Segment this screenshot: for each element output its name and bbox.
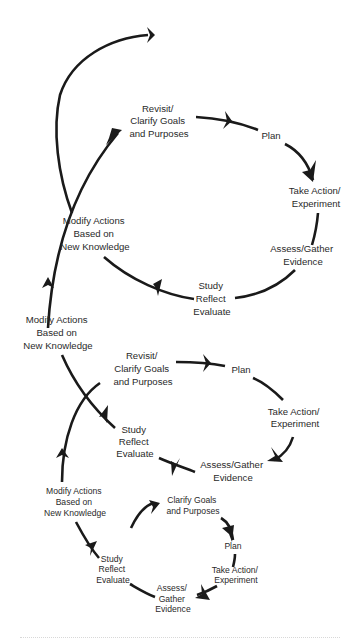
label-take-action: Take Action/ Experiment [268,406,322,429]
arrowhead-icon [106,128,122,145]
arc-revisit-plan [176,362,225,366]
label-plan: Plan [224,541,241,551]
label-study: Study Reflect Evaluate [193,280,230,317]
label-revisit: Revisit/ Clarify Goals and Purposes [129,103,188,139]
arc-study-clarify [131,503,153,528]
label-study: Study Reflect Evaluate [116,424,153,459]
caption-line [20,637,340,641]
spiral-cycle-diagram: Revisit/ Clarify Goals and Purposes Plan… [0,0,362,644]
label-modify: Modify Actions Based on New Knowledge [60,215,129,252]
label-clarify: Clarify Goals and Purposes [166,495,219,516]
arc-plan-takeaction [253,378,283,400]
label-modify-in: Modify Actions Based on New Knowledge [23,314,92,351]
bottom-cycle: Modify Actions Based on New Knowledge Cl… [44,486,260,614]
arc-into-revisit [62,383,100,482]
label-study: Study Reflect Evaluate [96,554,130,585]
label-assess: Assess/Gather Evidence [200,459,266,483]
arc-assess-study [159,458,195,472]
label-modify-in: Modify Actions Based on New Knowledge [44,486,106,518]
arc-assess-study [235,270,295,298]
label-plan: Plan [231,364,250,375]
label-take-action: Take Action/ Experiment [289,185,343,209]
label-plan: Plan [261,130,280,141]
label-revisit: Revisit/ Clarify Goals and Purposes [113,350,172,387]
arc-assess-study [130,584,155,597]
top-cycle: Revisit/ Clarify Goals and Purposes Plan… [48,27,343,328]
arrowhead-icon [147,27,155,43]
arc-study-modify [104,257,194,299]
middle-cycle: Modify Actions Based on New Knowledge Re… [23,314,322,483]
label-assess: Assess/ Gather Evidence [155,583,191,614]
arc-takeaction-assess [197,586,217,595]
label-take-action: Take Action/ Experiment [212,565,261,585]
arc-modify-down [76,522,99,558]
arrowhead-icon [149,500,160,514]
label-assess: Assess/Gather Evidence [270,243,336,267]
arrowhead-icon [222,525,234,542]
arc-takeaction-assess [312,213,318,245]
